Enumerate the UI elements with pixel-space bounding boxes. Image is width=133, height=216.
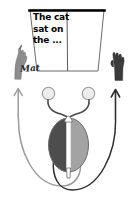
left-optic-tract bbox=[48, 100, 67, 117]
right-hand-shape bbox=[113, 52, 124, 80]
left-hand-icon bbox=[15, 45, 27, 80]
right-hand-thumb bbox=[111, 60, 114, 67]
eyes-group bbox=[42, 87, 94, 99]
right-hand-icon bbox=[111, 52, 124, 80]
right-pathway-arrow bbox=[111, 90, 119, 121]
stimulus-sentence-text: The cat sat on the ... bbox=[33, 12, 75, 47]
right-eye bbox=[82, 87, 94, 99]
brain-stem bbox=[67, 168, 71, 178]
left-pathway-arrow bbox=[14, 89, 22, 119]
handwritten-response-text: Mat bbox=[20, 63, 41, 74]
left-hand-pen-tip bbox=[19, 45, 22, 50]
brain-midline-stripe bbox=[66, 118, 70, 172]
brain-body-figure bbox=[48, 116, 90, 178]
brain-right-hemisphere bbox=[69, 118, 90, 172]
brain-left-hemisphere bbox=[48, 118, 69, 172]
left-eye bbox=[42, 87, 54, 99]
right-optic-tract bbox=[71, 100, 90, 117]
split-brain-diagram: The cat sat on the ... Mat bbox=[0, 0, 133, 216]
